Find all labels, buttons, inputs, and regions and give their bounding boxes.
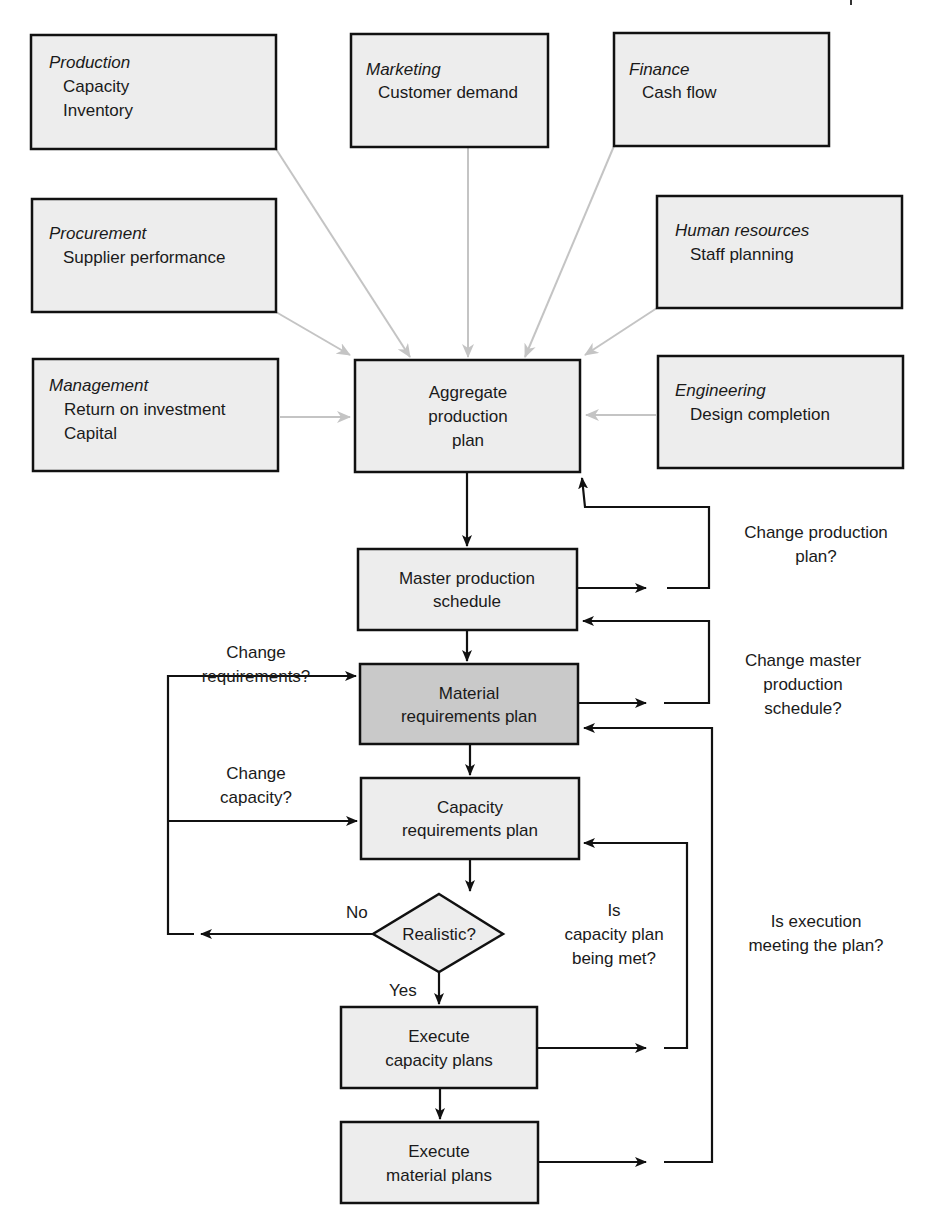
node-text: Material <box>439 684 499 703</box>
label-line: capacity plan <box>564 925 663 944</box>
node-text: Master production <box>399 569 535 588</box>
dept-title: Production <box>49 53 130 72</box>
node-material-requirements-plan: Material requirements plan <box>360 664 578 744</box>
dept-item: Design completion <box>690 405 830 424</box>
arrow-production-to-aggregate <box>276 149 410 357</box>
dept-box-engineering: Engineering Design completion <box>658 356 903 468</box>
arrow-finance-to-aggregate <box>525 146 614 357</box>
cropped-mark <box>850 0 852 5</box>
label-line: Is execution <box>771 912 862 931</box>
node-text: requirements plan <box>402 821 538 840</box>
label-line: meeting the plan? <box>748 936 883 955</box>
decision-text: Realistic? <box>402 925 476 944</box>
mrp-planning-diagram: Production Capacity Inventory Marketing … <box>0 0 930 1208</box>
node-text: requirements plan <box>401 707 537 726</box>
label-line: Is <box>607 901 620 920</box>
node-execute-capacity-plans: Execute capacity plans <box>341 1007 537 1088</box>
label-line: Change master <box>745 651 862 670</box>
dept-title: Marketing <box>366 60 441 79</box>
dept-item: Staff planning <box>690 245 794 264</box>
dept-box-procurement: Procurement Supplier performance <box>32 199 276 312</box>
label-line: capacity? <box>220 788 292 807</box>
node-text: Execute <box>408 1027 469 1046</box>
dept-title: Procurement <box>49 224 148 243</box>
dept-item: Cash flow <box>642 83 717 102</box>
dept-item: Capacity <box>63 77 130 96</box>
dept-item: Supplier performance <box>63 248 226 267</box>
node-text: material plans <box>386 1166 492 1185</box>
arrow-procurement-to-aggregate <box>276 312 350 355</box>
label-line: Change <box>226 764 286 783</box>
label-line: requirements? <box>202 667 311 686</box>
node-master-production-schedule: Master production schedule <box>358 549 577 630</box>
decision-realistic: Realistic? <box>373 894 503 972</box>
dept-box-production: Production Capacity Inventory <box>31 35 276 149</box>
dept-box-finance: Finance Cash flow <box>614 33 829 146</box>
label-change-production-plan: Change production plan? <box>744 523 888 566</box>
node-text: Aggregate <box>429 383 507 402</box>
node-text: production <box>428 407 507 426</box>
label-line: production <box>763 675 842 694</box>
label-yes: Yes <box>389 981 417 1000</box>
dept-item: Inventory <box>63 101 133 120</box>
node-text: schedule <box>433 592 501 611</box>
label-change-requirements: Change requirements? <box>202 643 311 686</box>
label-no: No <box>346 903 368 922</box>
node-capacity-requirements-plan: Capacity requirements plan <box>361 778 579 859</box>
node-text: Execute <box>408 1142 469 1161</box>
node-aggregate-production-plan: Aggregate production plan <box>355 360 580 472</box>
dept-title: Human resources <box>675 221 810 240</box>
dept-box-human-resources: Human resources Staff planning <box>657 196 902 308</box>
label-line: being met? <box>572 949 656 968</box>
loop-capacity-plan-met <box>584 843 687 1048</box>
loop-change-mps <box>583 621 709 703</box>
node-execute-material-plans: Execute material plans <box>341 1122 538 1203</box>
label-line: plan? <box>795 547 837 566</box>
label-line: Change <box>226 643 286 662</box>
label-line: Change production <box>744 523 888 542</box>
dept-title: Management <box>49 376 150 395</box>
label-change-capacity: Change capacity? <box>220 764 292 807</box>
dept-item: Return on investment <box>64 400 226 419</box>
dept-box-management: Management Return on investment Capital <box>33 359 278 471</box>
dept-title: Engineering <box>675 381 766 400</box>
dept-item: Customer demand <box>378 83 518 102</box>
loop-change-production-plan <box>582 478 709 588</box>
loop-execution-meeting-plan <box>584 728 712 1162</box>
node-text: capacity plans <box>385 1051 493 1070</box>
dept-title: Finance <box>629 60 689 79</box>
label-line: schedule? <box>764 699 842 718</box>
label-execution-meeting-plan: Is execution meeting the plan? <box>748 912 883 955</box>
label-capacity-plan-met: Is capacity plan being met? <box>564 901 663 968</box>
node-text: Capacity <box>437 798 504 817</box>
node-text: plan <box>452 431 484 450</box>
dept-box-marketing: Marketing Customer demand <box>351 34 548 147</box>
label-change-master-schedule: Change master production schedule? <box>745 651 862 718</box>
dept-item: Capital <box>64 424 117 443</box>
arrow-hr-to-aggregate <box>585 308 657 355</box>
